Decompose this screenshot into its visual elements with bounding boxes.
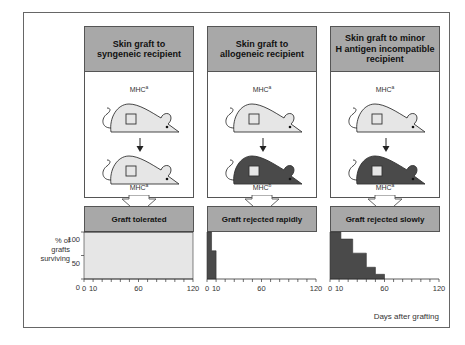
panel-title: Skin graft tosyngeneic recipient — [84, 26, 194, 72]
y-label-line: grafts — [36, 245, 70, 254]
panel-title-line: allogeneic recipient — [220, 49, 304, 60]
panel-title: Skin graft toallogeneic recipient — [207, 26, 317, 72]
mhc-text: MHC — [253, 184, 269, 191]
mhc-text: MHC — [130, 86, 146, 93]
donor-mouse-icon — [345, 98, 427, 138]
donor-mhc-label: MHCa — [208, 84, 316, 93]
mhc-haplotype: a — [269, 84, 272, 90]
x-tick-0: 0 — [328, 284, 332, 293]
x-tick-120: 120 — [433, 284, 446, 293]
panel-title-line: H antigen incompatible — [335, 44, 434, 55]
mouse-box: MHCa MHCa — [84, 72, 194, 198]
mhc-haplotype: a — [146, 182, 149, 188]
panel-title: Skin graft to minorH antigen incompatibl… — [330, 26, 440, 72]
x-tick-0: 0 — [205, 284, 209, 293]
x-tick-0: 0 — [82, 284, 86, 293]
x-tick-10: 10 — [212, 284, 220, 293]
survival-chart: 0 10 60 120 — [207, 217, 317, 295]
x-tick-120: 120 — [187, 284, 200, 293]
y-tick-0: 0 — [64, 283, 80, 292]
donor-mhc-label: MHCa — [331, 84, 439, 93]
x-tick-120: 120 — [310, 284, 323, 293]
mhc-haplotype: b — [269, 182, 272, 188]
x-tick-60: 60 — [134, 284, 142, 293]
mouse-box: MHCa MHCb — [207, 72, 317, 198]
x-tick-10: 10 — [335, 284, 343, 293]
survival-chart: 0 10 60 120 — [330, 217, 440, 295]
panel-title-line: recipient — [335, 54, 434, 65]
panel-title-line: Skin graft to — [97, 39, 181, 50]
y-tick-50: 50 — [64, 259, 80, 268]
donor-mouse-icon — [222, 98, 304, 138]
x-tick-60: 60 — [257, 284, 265, 293]
mhc-text: MHC — [376, 184, 392, 191]
mhc-text: MHC — [253, 86, 269, 93]
panel-title-line: syngeneic recipient — [97, 49, 181, 60]
mhc-haplotype: a — [146, 84, 149, 90]
donor-mouse-icon — [99, 98, 181, 138]
mouse-box: MHCa MHCa — [330, 72, 440, 198]
x-tick-60: 60 — [380, 284, 388, 293]
recipient-mhc-label: MHCa — [85, 182, 193, 191]
survival-chart: 0 10 60 120 — [84, 217, 194, 295]
mhc-haplotype: a — [392, 84, 395, 90]
panel-title-line: Skin graft to — [220, 39, 304, 50]
donor-mhc-label: MHCa — [85, 84, 193, 93]
mhc-text: MHC — [130, 184, 146, 191]
recipient-mhc-label: MHCb — [208, 182, 316, 191]
x-axis-label: Days after grafting — [374, 312, 439, 321]
x-tick-10: 10 — [89, 284, 97, 293]
mhc-haplotype: a — [392, 182, 395, 188]
panel-title-line: Skin graft to minor — [335, 33, 434, 44]
recipient-mhc-label: MHCa — [331, 182, 439, 191]
y-tick-100: 100 — [64, 235, 80, 244]
mhc-text: MHC — [376, 86, 392, 93]
